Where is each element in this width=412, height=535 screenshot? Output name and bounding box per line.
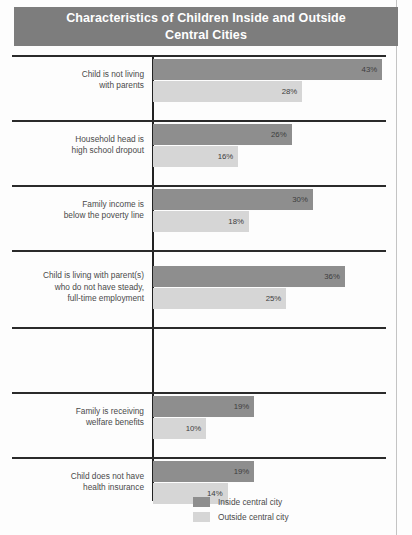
category-label: Family income isbelow the poverty line <box>12 199 144 222</box>
bar-value-label: 16% <box>218 152 234 161</box>
category-label-line: Child is not living <box>12 69 144 81</box>
category-label: Child is living with parent(s)who do not… <box>12 270 144 305</box>
bar-pair: 19%10% <box>153 396 254 439</box>
bar-pair: 43%28% <box>153 59 382 102</box>
group-separator <box>12 327 386 329</box>
category-label-line: full-time employment <box>12 293 144 305</box>
bar-value-label: 18% <box>228 217 244 226</box>
legend-swatch-outside-icon <box>193 512 210 522</box>
chart-legend: Inside central city Outside central city <box>193 497 289 522</box>
bar-inside: 30% <box>153 189 313 210</box>
bar-inside: 19% <box>153 396 254 417</box>
chart-title: Characteristics of Children Inside and O… <box>14 7 398 46</box>
group-separator <box>12 392 386 394</box>
bar-value-label: 28% <box>282 87 298 96</box>
category-label-line: Child is living with parent(s) <box>12 270 144 282</box>
bar-value-label: 19% <box>234 402 250 411</box>
bar-pair: 30%18% <box>153 189 313 232</box>
category-label-line: below the poverty line <box>12 210 144 222</box>
bar-outside: 25% <box>153 288 286 309</box>
legend-label-inside: Inside central city <box>218 497 282 507</box>
category-label: Household head ishigh school dropout <box>12 134 144 157</box>
bar-value-label: 26% <box>271 130 287 139</box>
group-separator <box>12 120 386 122</box>
category-label: Family is receivingwelfare benefits <box>12 406 144 429</box>
bar-value-label: 10% <box>186 424 202 433</box>
legend-item-inside: Inside central city <box>193 497 289 507</box>
category-label-line: Family income is <box>12 199 144 211</box>
chart-title-line-2: Central Cities <box>66 27 346 44</box>
bar-outside: 16% <box>153 146 238 167</box>
bar-value-label: 25% <box>266 294 282 303</box>
bar-value-label: 19% <box>234 467 250 476</box>
legend-item-outside: Outside central city <box>193 512 289 522</box>
category-label-line: Child does not have <box>12 471 144 483</box>
bar-value-label: 36% <box>324 272 340 281</box>
category-label-line: Family is receiving <box>12 406 144 418</box>
group-separator <box>12 55 386 57</box>
chart-title-line-1: Characteristics of Children Inside and O… <box>66 10 346 27</box>
group-separator <box>12 185 386 187</box>
category-label-line: Household head is <box>12 134 144 146</box>
category-label-line: with parents <box>12 80 144 92</box>
chart-figure: Characteristics of Children Inside and O… <box>0 0 412 535</box>
bar-inside: 19% <box>153 461 254 482</box>
group-separator <box>12 457 386 459</box>
bar-inside: 43% <box>153 59 382 80</box>
category-label: Child does not havehealth insurance <box>12 471 144 494</box>
group-separator <box>12 250 386 252</box>
bar-outside: 28% <box>153 81 302 102</box>
bar-outside: 18% <box>153 211 249 232</box>
plot-area: Child is not livingwith parents43%28%Hou… <box>0 46 412 486</box>
category-label: Child is not livingwith parents <box>12 69 144 92</box>
bar-inside: 26% <box>153 124 292 145</box>
category-label-line: who do not have steady, <box>12 282 144 294</box>
category-label-line: high school dropout <box>12 145 144 157</box>
category-label-line: welfare benefits <box>12 417 144 429</box>
bar-value-label: 30% <box>292 195 308 204</box>
bar-pair: 26%16% <box>153 124 292 167</box>
bar-inside: 36% <box>153 266 345 287</box>
bar-pair: 36%25% <box>153 266 345 309</box>
category-label-line: health insurance <box>12 482 144 494</box>
bar-value-label: 43% <box>362 65 378 74</box>
legend-swatch-inside-icon <box>193 497 210 507</box>
bar-outside: 10% <box>153 418 206 439</box>
legend-label-outside: Outside central city <box>218 512 289 522</box>
